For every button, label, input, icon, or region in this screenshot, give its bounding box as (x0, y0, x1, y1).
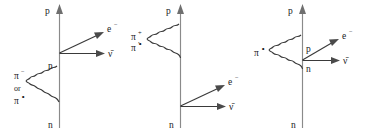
diagram-1-pion-first-symbol: π (14, 71, 19, 81)
diagram-3-label-top-nucleon: p (288, 6, 293, 16)
diagram-2-label-top-nucleon: p (166, 6, 171, 16)
diagram-2-electron-superscript: − (235, 74, 239, 81)
diagram-canvas: p n n e − ν̄ π − or π ∘ (0, 0, 367, 136)
diagram-3-pion-superscript: ∘ (261, 45, 265, 52)
diagram-1-label-upper-inner-nucleon: n (48, 61, 53, 71)
diagram-3-label-antineutrino: ν̄ (343, 56, 349, 66)
diagram-1-pion-second-superscript: ∘ (21, 93, 25, 100)
diagram-3-nucleon-arrowhead (299, 4, 306, 14)
diagram-2-pion-second-symbol: π (131, 43, 136, 53)
diagram-2-label-antineutrino: ν̄ (229, 102, 235, 112)
diagram-1-label-electron: e − (107, 21, 118, 34)
diagram-3-antineutrino-arrowhead (331, 57, 340, 64)
diagram-2-pion-lower-leg (147, 39, 181, 58)
diagram-1-label-antineutrino: ν̄ (108, 49, 114, 59)
diagram-3-electron-arrowhead (329, 39, 339, 46)
diagram-1-pion-first-superscript: − (21, 68, 25, 75)
diagram-3-group: p n p n e − ν̄ π ∘ (254, 4, 353, 130)
diagram-2-electron-symbol: e (228, 77, 232, 87)
diagram-3-label-bottom-nucleon: n (291, 120, 296, 130)
diagram-2-antineutrino-arrowhead (217, 103, 226, 110)
diagram-1-electron-symbol: e (107, 24, 111, 34)
diagram-3-electron-symbol: e (342, 31, 346, 41)
diagram-3-pion-lower-leg (269, 50, 303, 69)
diagram-2-electron-arrowhead (215, 85, 225, 92)
diagram-1-group: p n n e − ν̄ π − or π ∘ (14, 4, 118, 130)
diagram-3-pion-symbol: π (254, 48, 259, 58)
diagram-1-label-bottom-nucleon: n (48, 120, 53, 130)
diagram-1-electron-superscript: − (114, 21, 118, 28)
diagram-3-label-vertex-upper: p (306, 44, 311, 54)
diagram-3-electron-superscript: − (349, 28, 353, 35)
diagram-3-pion-upper-leg (269, 35, 301, 50)
diagram-2-group: p n e − ν̄ π + , π ∘ (131, 4, 239, 130)
diagram-1-pion-second-symbol: π (14, 96, 19, 106)
diagram-2-label-electron: e − (228, 74, 239, 87)
diagram-2-label-bottom-nucleon: n (169, 120, 174, 130)
diagram-1-pion-lower-leg (26, 81, 59, 102)
diagram-2-electron-line (181, 87, 222, 106)
diagram-3-label-vertex-lower: n (306, 64, 311, 74)
feynman-diagram-figure: p n n e − ν̄ π − or π ∘ (0, 0, 367, 136)
diagram-1-nucleon-arrowhead (56, 4, 63, 14)
diagram-3-label-pion: π ∘ (254, 45, 265, 58)
diagram-2-pion-first-symbol: π (131, 32, 136, 42)
diagram-1-pion-conjunction: or (14, 84, 21, 93)
diagram-3-label-electron: e − (342, 28, 353, 41)
diagram-2-nucleon-arrowhead (177, 4, 184, 14)
diagram-2-pion-upper-leg (147, 24, 179, 39)
diagram-1-label-top-nucleon: p (45, 6, 50, 16)
diagram-2-pion-first-superscript: + (138, 29, 142, 36)
diagram-1-antineutrino-arrowhead (96, 50, 105, 57)
diagram-2-label-pion-options: π + , π ∘ (131, 29, 142, 53)
diagram-2-pion-second-superscript: ∘ (138, 40, 142, 47)
diagram-1-electron-arrowhead (94, 32, 104, 39)
diagram-1-label-pion-options: π − or π ∘ (14, 68, 25, 106)
diagram-1-electron-line (60, 34, 101, 53)
